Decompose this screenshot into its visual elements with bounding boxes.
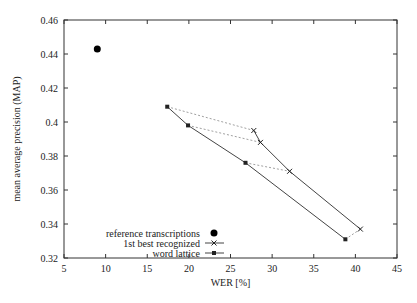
x-tick-label: 5 [62,263,67,274]
y-tick-label: 0.38 [41,151,59,162]
data-point [165,105,169,109]
data-point [94,45,101,52]
x-tick-label: 15 [142,263,152,274]
y-tick-label: 0.42 [41,83,59,94]
data-point [243,161,247,165]
y-tick-label: 0.4 [46,117,59,128]
x-axis-label: WER [%] [211,277,251,288]
series-line [167,107,345,240]
data-point [343,237,347,241]
dotted-connector [345,229,360,239]
y-tick-label: 0.32 [41,253,59,264]
legend-marker [211,230,218,237]
data-point [186,123,190,127]
x-tick-label: 10 [101,263,111,274]
x-tick-label: 25 [226,263,236,274]
y-tick-label: 0.34 [41,219,59,230]
legend-marker [212,251,216,255]
y-tick-label: 0.46 [41,15,59,26]
chart: 510152025303540450.320.340.360.380.40.42… [0,0,417,303]
plot-frame [64,20,397,258]
x-tick-label: 20 [184,263,194,274]
y-axis-label: mean average precision (MAP) [11,76,23,201]
x-tick-label: 40 [350,263,360,274]
y-tick-label: 0.44 [41,49,59,60]
x-tick-label: 35 [309,263,319,274]
dotted-connector [188,125,260,142]
series-line [254,131,361,230]
x-tick-label: 45 [392,263,402,274]
legend-label: word lattice [153,248,201,259]
y-tick-label: 0.36 [41,185,59,196]
x-tick-label: 30 [267,263,277,274]
